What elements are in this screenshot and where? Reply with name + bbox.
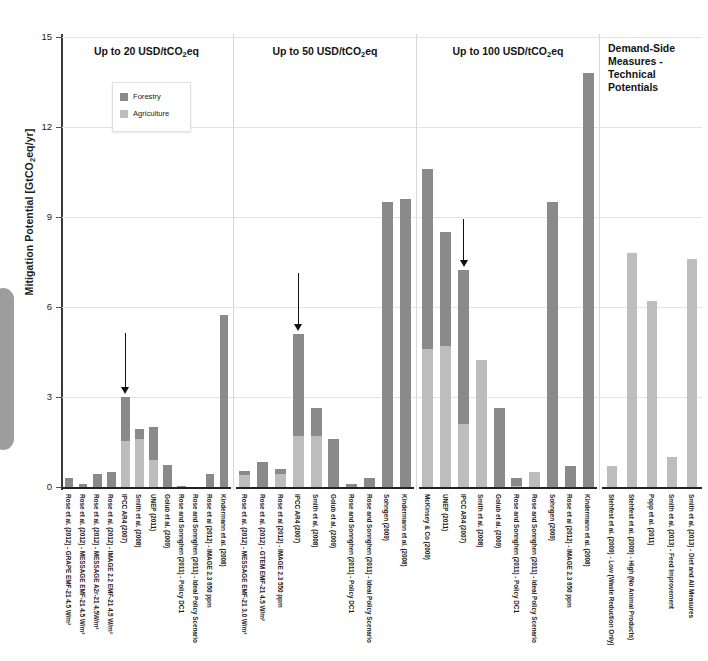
bar	[511, 478, 522, 487]
panel-separator	[599, 34, 600, 490]
x-axis-label: Rose and Sonnghen (2011) - Ideal Policy …	[366, 494, 373, 643]
bar	[239, 471, 250, 488]
x-axis-label: Rose et al. (2012) - MESSAGE A2r-21 4.5W…	[93, 494, 100, 629]
bar	[583, 73, 594, 487]
bar	[275, 469, 286, 487]
annotation-arrow	[463, 219, 465, 261]
bar-segment-forestry	[177, 486, 186, 487]
bar-segment-forestry	[65, 478, 74, 487]
bar	[440, 232, 451, 487]
panel-title: Up to 50 USD/tCO2eq	[236, 45, 414, 61]
bar	[257, 462, 268, 488]
bar-segment-agriculture	[311, 436, 322, 487]
x-axis-label: IPCC AR4 (2007)	[121, 494, 128, 543]
bar	[494, 408, 505, 488]
panel-separator	[233, 34, 234, 490]
chart-figure: Mitigation Potential [GtCO2eq/yr] 036912…	[0, 0, 708, 661]
x-axis-label: Rose et al. (2012) - GTEM EMF-21 4.5 W/m…	[259, 494, 266, 621]
x-axis-label: Popp et al. (2011)	[648, 494, 655, 545]
bar-segment-agriculture	[149, 460, 158, 487]
bar	[627, 253, 636, 487]
x-axis-label: IPCC AR4 (2007)	[460, 494, 467, 543]
bar-segment-forestry	[494, 408, 505, 488]
legend-label-agriculture: Agriculture	[133, 109, 169, 118]
bar	[135, 429, 144, 488]
bar-segment-forestry	[311, 408, 322, 437]
bar-segment-forestry	[121, 397, 130, 441]
y-tick	[56, 307, 61, 308]
x-axis-label: Stehfest et al. (2009) - High (No Animal…	[628, 494, 635, 640]
bar	[328, 439, 339, 487]
x-axis-label: Sohngen (2009)	[383, 494, 390, 541]
x-axis-label: UNEP (2011)	[442, 494, 449, 531]
x-axis-label: Golub et al. (2009)	[495, 494, 502, 548]
x-axis-label: Smith et al. (2013) - Feed Improvement	[668, 494, 675, 609]
bar	[121, 397, 130, 487]
bar-segment-forestry	[206, 474, 215, 488]
bar	[93, 474, 102, 488]
legend-swatch-forestry	[120, 93, 128, 101]
bar	[476, 360, 487, 488]
x-axis-label: McKinsey & Co (2009)	[424, 494, 431, 560]
bar	[346, 484, 357, 487]
x-axis-label: Rose and Sonnghen (2011) - Policy DC1	[348, 494, 355, 613]
bar-segment-agriculture	[627, 253, 636, 487]
bar-segment-forestry	[382, 202, 393, 487]
x-axis-label: Rose et al (2012) - IMAGE 2.3 550 ppm	[277, 494, 284, 608]
x-axis-label: Golub et al. (2009)	[164, 494, 171, 548]
bar	[364, 478, 375, 487]
bar-segment-forestry	[135, 429, 144, 440]
x-axis-label: Kindermann et al. (2008)	[401, 494, 408, 567]
bar	[400, 199, 411, 487]
panel-title: Up to 20 USD/tCO2eq	[62, 45, 231, 61]
bar-segment-forestry	[79, 484, 88, 487]
bar-segment-forestry	[422, 169, 433, 349]
bar-segment-forestry	[583, 73, 594, 487]
bar-segment-forestry	[220, 315, 229, 488]
bar-segment-forestry	[440, 232, 451, 346]
x-axis-label: Rose and Sonnghen (2011) - Policy DC1	[513, 494, 520, 613]
bar-segment-forestry	[163, 465, 172, 488]
bar	[565, 466, 576, 487]
x-axis-label: Smith et al. (2013) - Diet and All Measu…	[688, 494, 695, 618]
x-axis-label: Kindermann et al. (2008)	[584, 494, 591, 567]
bar	[687, 259, 696, 487]
x-axis-label: Stehfest et al. (2009) - Low (Waste Redu…	[608, 494, 615, 645]
bar-segment-agriculture	[458, 424, 469, 487]
bar-segment-agriculture	[529, 472, 540, 487]
bar	[163, 465, 172, 488]
panel-baseline	[602, 487, 702, 489]
bar	[529, 472, 540, 487]
y-tick-label: 6	[26, 301, 52, 312]
gridline	[62, 37, 702, 38]
bar	[311, 408, 322, 488]
y-axis-title-main: Mitigation Potential [GtCO	[23, 162, 35, 295]
bar-segment-agriculture	[511, 486, 522, 488]
bar	[458, 270, 469, 488]
x-axis-label: Rose et al. (2012) - MESSAGE EMF-21 3.0 …	[241, 494, 248, 634]
bar-segment-agriculture	[121, 441, 130, 488]
x-axis-label: Smith et al. (2008)	[477, 494, 484, 547]
bar-segment-forestry	[346, 484, 357, 487]
bar-segment-forestry	[511, 478, 522, 486]
x-axis-label: Rose et al. (2012) - IMAGE 2.2 EMF-21 4.…	[107, 494, 114, 634]
bar	[177, 486, 186, 487]
x-axis-label: Sohngen (2009)	[549, 494, 556, 541]
bar-segment-agriculture	[239, 475, 250, 487]
panel-baseline	[236, 487, 414, 489]
legend-label-forestry: Forestry	[133, 92, 161, 101]
x-axis-label: Smith et al. (2008)	[135, 494, 142, 547]
bar	[547, 202, 558, 487]
y-tick	[56, 487, 61, 488]
x-axis-label: Smith et al. (2008)	[312, 494, 319, 547]
bar-segment-agriculture	[293, 436, 304, 487]
bar	[293, 334, 304, 487]
bar-segment-forestry	[458, 270, 469, 425]
bar-segment-agriculture	[476, 360, 487, 488]
legend: Forestry Agriculture	[112, 82, 191, 132]
y-tick-label: 0	[26, 481, 52, 492]
panel-baseline	[62, 487, 231, 489]
x-axis-label: Rose and Sonnghen (2011) - Ideal Policy …	[531, 494, 538, 643]
y-tick-label: 3	[26, 391, 52, 402]
x-axis-label: Rose et al (2012) - IMAGE 2.3 650 ppm	[206, 494, 213, 608]
